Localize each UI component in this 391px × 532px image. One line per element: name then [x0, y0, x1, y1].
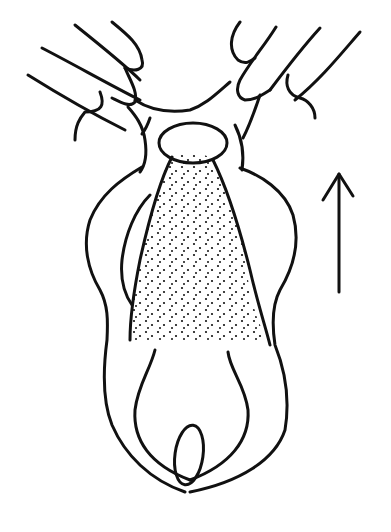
- inner-lower-left: [135, 350, 190, 480]
- right-hand-drawing: [231, 22, 360, 138]
- right-connector: [235, 125, 243, 170]
- figure-caption: [18, 524, 378, 532]
- left-notch: [142, 118, 150, 134]
- stippled-region: [130, 153, 268, 340]
- left-connector: [128, 107, 146, 172]
- illustration: [0, 0, 391, 532]
- inner-lower-right: [190, 352, 248, 480]
- inner-oval: [171, 423, 207, 486]
- up-arrow-icon: [323, 174, 353, 292]
